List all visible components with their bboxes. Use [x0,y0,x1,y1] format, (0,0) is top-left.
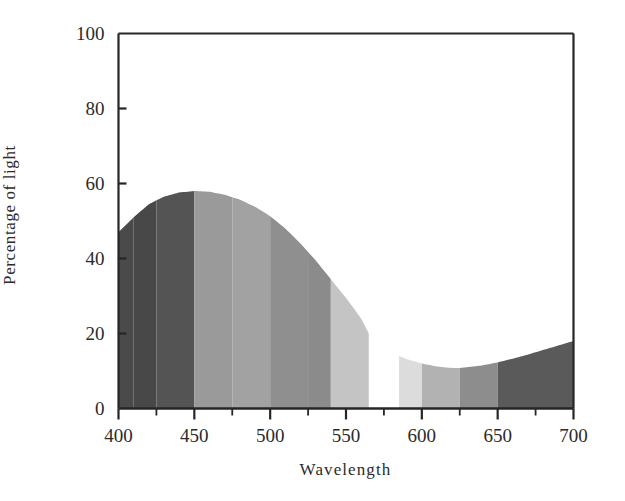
x-axis-tick-label: 600 [408,425,437,447]
y-axis-tick-label: 40 [86,248,105,270]
x-axis-tick-label: 650 [483,425,512,447]
spectral-band [422,364,460,409]
spectral-band [460,362,498,408]
y-axis-tick-label: 80 [86,98,105,120]
spectral-band [119,217,134,408]
spectral-band [194,191,232,409]
spectral-band [156,191,194,409]
x-axis-tick-label: 450 [180,425,209,447]
spectral-band [134,200,157,408]
y-axis-tick-label: 20 [86,323,105,345]
x-axis-tick-label: 400 [104,425,133,447]
x-axis-tick-label: 500 [256,425,285,447]
x-axis-title: Wavelength [118,460,573,480]
spectral-band [232,197,270,408]
y-axis-title: Percentage of light [0,0,20,430]
y-axis-tick-label: 100 [76,23,105,45]
y-axis-tick-label: 60 [86,173,105,195]
y-axis-tick-label: 0 [95,398,105,420]
spectral-band [399,356,422,409]
x-axis-tick-label: 700 [559,425,588,447]
spectral-band [308,252,331,409]
x-axis-tick-label: 550 [332,425,361,447]
